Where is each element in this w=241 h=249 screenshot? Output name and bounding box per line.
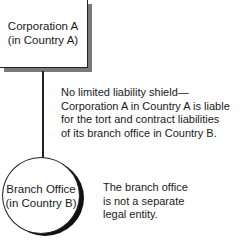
parent-country: (in Country A) xyxy=(8,33,78,47)
liability-note: No limited liability shield— Corporation… xyxy=(61,86,241,140)
branch-note: The branch office is not a separate lega… xyxy=(103,181,223,222)
branch-office-circle: Branch Office (in Country B) xyxy=(2,157,80,234)
connector-line xyxy=(42,71,44,159)
branch-note-line: The branch office xyxy=(103,181,223,195)
parent-corporation-box: Corporation A (in Country A) xyxy=(0,0,88,68)
liability-note-line: Corporation A in Country A is liable xyxy=(61,100,241,114)
branch-note-line: legal entity. xyxy=(103,208,223,222)
parent-name: Corporation A xyxy=(8,19,78,33)
branch-name: Branch Office xyxy=(6,182,77,196)
liability-note-line: for the tort and contract liabilities xyxy=(61,113,241,127)
branch-note-line: is not a separate xyxy=(103,195,223,209)
liability-note-line: No limited liability shield— xyxy=(61,86,241,100)
branch-country: (in Country B) xyxy=(6,196,77,210)
liability-note-line: of its branch office in Country B. xyxy=(61,127,241,141)
